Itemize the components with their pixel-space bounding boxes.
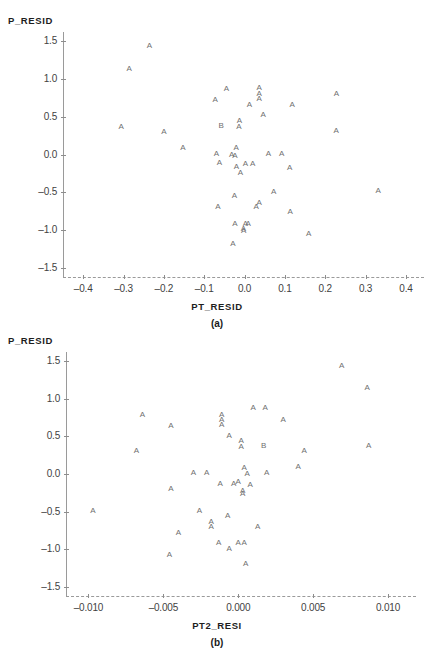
data-point-marker: A [366,442,371,450]
data-point-marker: A [134,447,139,455]
y-axis-tick [61,41,66,42]
data-point-marker: A [243,560,248,568]
y-axis-tick-label: –1.0 [22,543,60,554]
y-axis-tick [64,549,69,550]
y-axis-tick-label: –1.0 [19,224,57,235]
data-point-marker: A [279,150,284,158]
data-point-marker: A [238,169,243,177]
data-point-marker: A [301,447,306,455]
x-axis-tick-label: 0.4 [376,283,434,294]
y-axis-tick-label: 0.0 [19,149,57,160]
data-point-marker: A [236,123,241,131]
data-point-marker: A [271,188,276,196]
data-point-marker: A [232,192,237,200]
x-axis-line [63,277,424,278]
x-axis-line [66,596,416,597]
data-point-marker: A [339,362,344,370]
y-axis-title: P_RESID [8,15,53,26]
panel-caption: (b) [0,637,434,648]
data-point-marker: A [126,65,131,73]
y-axis-title: P_RESID [8,335,53,346]
data-point-marker: A [147,42,152,50]
data-point-marker: A [334,90,339,98]
y-axis-tick [64,512,69,513]
data-point-marker: A [255,523,260,531]
x-axis-title: PT_RESID [0,301,434,312]
y-axis-tick-label: –0.5 [22,506,60,517]
data-point-marker: A [197,507,202,515]
data-point-marker: B [261,442,266,450]
y-axis-tick-label: 1.0 [22,393,60,404]
y-axis-tick-label: 0.0 [22,468,60,479]
data-point-marker: A [245,470,250,478]
data-point-marker: A [287,208,292,216]
data-point-marker: A [266,150,271,158]
y-axis-tick [64,474,69,475]
x-axis-tick [245,275,246,279]
data-point-marker: A [243,160,248,168]
data-point-marker: A [281,416,286,424]
x-axis-tick [88,594,89,598]
data-point-marker: A [247,101,252,109]
data-point-marker: A [168,485,173,493]
x-axis-tick [313,594,314,598]
x-axis-tick [388,594,389,598]
x-axis-tick [366,275,367,279]
y-axis-tick-label: –1.5 [19,262,57,273]
data-point-marker: A [118,123,123,131]
data-point-marker: A [239,443,244,451]
x-axis-tick [285,275,286,279]
x-axis-tick [238,594,239,598]
data-point-marker: A [240,490,245,498]
y-axis-tick-label: 1.0 [19,73,57,84]
x-axis-tick-label: 0.010 [358,602,418,613]
x-axis-tick-label: –0.005 [133,602,193,613]
data-point-marker: A [333,127,338,135]
x-axis-tick [325,275,326,279]
data-point-marker: A [289,101,294,109]
y-axis-tick [64,436,69,437]
data-point-marker: A [215,203,220,211]
x-axis-tick-label: 0.000 [208,602,268,613]
data-point-marker: A [250,160,255,168]
data-point-marker: A [167,551,172,559]
data-point-marker: A [232,152,237,160]
data-point-marker: A [227,545,232,553]
data-point-marker: A [168,422,173,430]
data-point-marker: A [232,220,237,228]
data-point-marker: A [140,411,145,419]
data-point-marker: A [90,507,95,515]
data-point-marker: A [191,469,196,477]
data-point-marker: A [209,523,214,531]
y-axis-tick [64,399,69,400]
y-axis-tick [61,79,66,80]
data-point-marker: A [224,85,229,93]
y-axis-tick [61,192,66,193]
y-axis-tick-label: –0.5 [19,186,57,197]
x-axis-tick [124,275,125,279]
x-axis-tick [83,275,84,279]
scatter-plot-a: 1.51.00.50.0–0.5–1.0–1.5–0.4–0.3–0.2–0.1… [0,0,434,330]
x-axis-title: PT2_RESI [0,620,434,631]
data-point-marker: A [212,96,217,104]
data-point-marker: A [263,404,268,412]
scatter-plot-b: 1.51.00.50.0–0.5–1.0–1.5–0.010–0.0050.00… [0,320,434,669]
data-point-marker: A [225,512,230,520]
data-point-marker: A [364,384,369,392]
data-point-marker: A [254,203,259,211]
data-point-marker: A [227,432,232,440]
data-point-marker: B [218,122,223,130]
figure-panel-a: 1.51.00.50.0–0.5–1.0–1.5–0.4–0.3–0.2–0.1… [0,0,434,330]
data-point-marker: A [214,150,219,158]
data-point-marker: A [218,480,223,488]
y-axis-tick-label: 1.5 [22,355,60,366]
x-axis-tick-label: –0.010 [58,602,118,613]
data-point-marker: A [230,240,235,248]
y-axis-tick [61,230,66,231]
y-axis-tick-label: 0.5 [22,430,60,441]
data-point-marker: A [236,539,241,547]
y-axis-tick [61,117,66,118]
data-point-marker: A [217,159,222,167]
data-point-marker: A [260,111,265,119]
data-point-marker: A [295,463,300,471]
